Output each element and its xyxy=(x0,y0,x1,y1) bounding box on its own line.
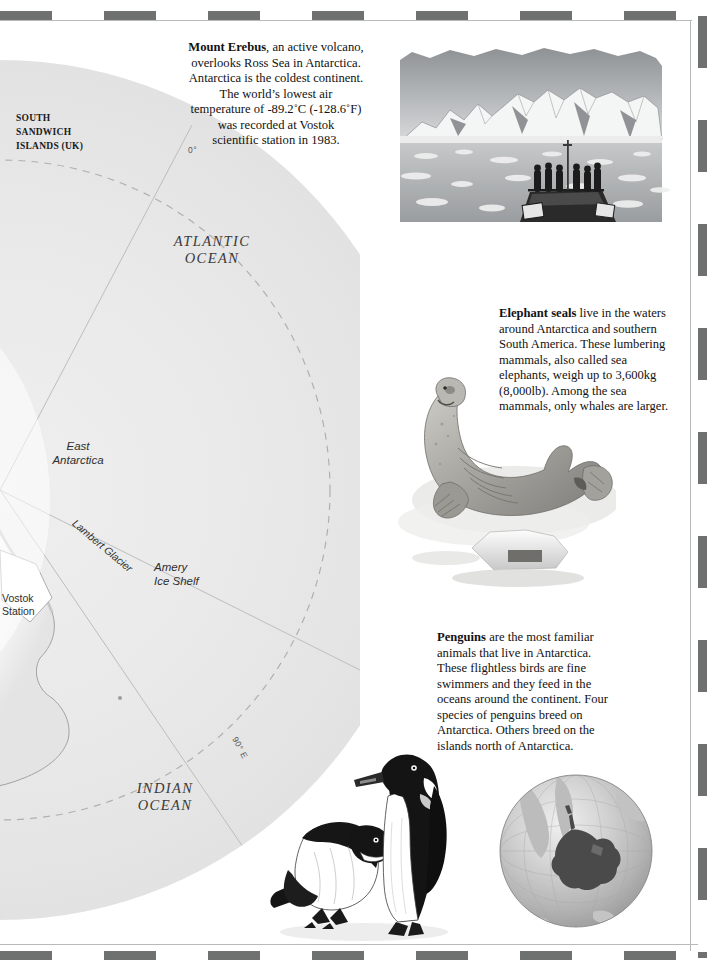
caption-mount-erebus-title: Mount Erebus xyxy=(188,40,266,54)
caption-mount-erebus: Mount Erebus, an active volcano, overloo… xyxy=(150,40,402,149)
frame-hairline-top xyxy=(0,20,692,21)
elephant-seal-illustration xyxy=(398,372,616,592)
caption-penguins: Penguins are the most familiar animals t… xyxy=(437,630,617,754)
map-label-south-sandwich-islands: SOUTH SANDWICH ISLANDS (UK) xyxy=(16,112,83,153)
page-border-right xyxy=(698,16,707,958)
caption-line: The world’s lowest air xyxy=(150,87,402,103)
map-label-east-antarctica: East Antarctica xyxy=(28,440,128,467)
page-border-top xyxy=(0,11,692,20)
frame-hairline-right xyxy=(690,20,691,952)
caption-elephant-seals-title: Elephant seals xyxy=(499,306,576,320)
caption-line: temperature of -89.2˚C (-128.6˚F) xyxy=(150,102,402,118)
frame-hairline-bottom xyxy=(0,944,700,945)
caption-line: , an active volcano, xyxy=(266,40,364,54)
caption-line: overlooks Ross Sea in Antarctica. xyxy=(150,56,402,72)
caption-penguins-body: are the most familiar animals that live … xyxy=(437,630,608,753)
map-label-amery-ice-shelf: Amery Ice Shelf xyxy=(154,561,216,588)
page-border-bottom xyxy=(0,951,700,960)
map-label-vostok-station: Vostok Station xyxy=(2,592,35,618)
mount-erebus-ship-illustration xyxy=(392,44,670,222)
atlas-page: SOUTH SANDWICH ISLANDS (UK) ATLANTIC OCE… xyxy=(0,0,714,969)
map-label-atlantic-ocean: ATLANTIC OCEAN xyxy=(152,233,272,267)
globe-antarctica-locator-illustration xyxy=(497,772,655,930)
two-penguins-illustration xyxy=(268,742,454,942)
caption-line: scientific station in 1983. xyxy=(150,133,402,149)
caption-line: was recorded at Vostok xyxy=(150,118,402,134)
caption-penguins-title: Penguins xyxy=(437,630,486,644)
caption-line: Antarctica is the coldest continent. xyxy=(150,71,402,87)
map-label-indian-ocean: INDIAN OCEAN xyxy=(105,780,225,814)
